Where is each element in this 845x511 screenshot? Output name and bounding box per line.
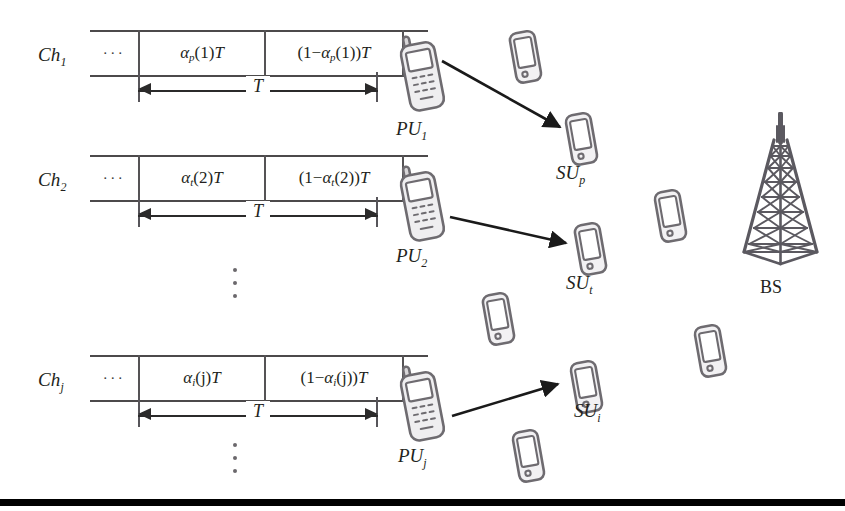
- channel-row-ch2: Ch2 ··· αt(2)T (1−αt(2))T ··· T: [38, 155, 438, 230]
- frame-bar-ch2: ··· αt(2)T (1−αt(2))T ···: [90, 155, 428, 202]
- bottom-rule: [0, 499, 845, 506]
- frame-bar-chj: ··· αi(j)T (1−αi(j))T ···: [90, 355, 428, 402]
- duration-label-ch2: T: [246, 201, 270, 221]
- smartphone-idle-icon: [508, 425, 548, 487]
- channel-list-ellipsis-lower: [233, 443, 237, 473]
- channel-label-chj: Chj: [38, 369, 64, 395]
- arrowhead-left-icon: [138, 83, 151, 95]
- feature-phone-pu2-icon: [396, 158, 452, 250]
- channel-label-ch1: Ch1: [38, 44, 67, 70]
- left-ellipsis-ch1: ···: [90, 30, 138, 77]
- duration-dimension-ch2: T: [138, 203, 378, 229]
- duration-dimension-ch1: T: [138, 78, 378, 104]
- left-ellipsis-ch2: ···: [90, 155, 138, 202]
- left-ellipsis-chj: ···: [90, 355, 138, 402]
- slot-transmission-ch2: (1−αt(2))T: [266, 155, 402, 202]
- arrowhead-right-icon: [365, 83, 378, 95]
- device-label-pu1: PU1: [396, 118, 427, 144]
- device-label-sut: SUt: [566, 272, 593, 298]
- arrowhead-right-icon: [365, 408, 378, 420]
- slot-transmission-ch1: (1−αp(1))T: [266, 30, 402, 77]
- device-label-puj: PUj: [398, 445, 427, 471]
- smartphone-idle-icon: [478, 288, 518, 350]
- feature-phone-puj-icon: [396, 358, 452, 450]
- arrowhead-right-icon: [365, 208, 378, 220]
- channel-label-ch2: Ch2: [38, 169, 67, 195]
- duration-dimension-chj: T: [138, 403, 378, 429]
- figure-canvas: Ch1 ··· αp(1)T (1−αp(1))T ··· T: [0, 0, 845, 511]
- device-label-bs: BS: [760, 277, 782, 298]
- frame-bar-ch1: ··· αp(1)T (1−αp(1))T ···: [90, 30, 428, 77]
- link-arrow-pu1-sup: [440, 55, 590, 140]
- channel-list-ellipsis-upper: [233, 268, 237, 298]
- slot-sensing-chj: αi(j)T: [140, 355, 264, 402]
- link-arrow-puj-sui: [450, 378, 580, 426]
- arrowhead-left-icon: [138, 408, 151, 420]
- slot-sensing-ch2: αt(2)T: [140, 155, 264, 202]
- device-label-sup: SUp: [556, 162, 585, 188]
- link-arrow-pu2-sut: [448, 210, 588, 260]
- slot-transmission-chj: (1−αi(j))T: [266, 355, 402, 402]
- smartphone-idle-icon: [650, 185, 690, 247]
- duration-label-chj: T: [246, 401, 270, 421]
- channel-row-ch1: Ch1 ··· αp(1)T (1−αp(1))T ··· T: [38, 30, 438, 105]
- smartphone-idle-icon: [690, 320, 730, 382]
- channel-row-chj: Chj ··· αi(j)T (1−αi(j))T ··· T: [38, 355, 438, 430]
- slot-sensing-ch1: αp(1)T: [140, 30, 264, 77]
- duration-label-ch1: T: [246, 76, 270, 96]
- arrowhead-left-icon: [138, 208, 151, 220]
- tower-icon: [728, 112, 833, 277]
- device-label-pu2: PU2: [396, 245, 427, 271]
